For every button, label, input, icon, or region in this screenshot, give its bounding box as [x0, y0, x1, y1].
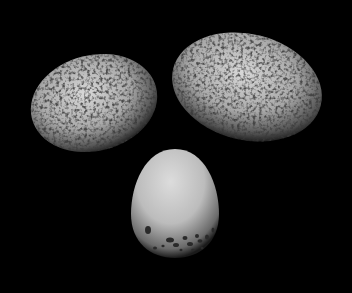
egg-photo-svg — [0, 0, 352, 293]
speckled-egg-left — [20, 41, 170, 165]
speckled-egg-right — [160, 17, 333, 157]
pale-spotted-egg — [131, 149, 219, 258]
egg-photo — [0, 0, 352, 293]
